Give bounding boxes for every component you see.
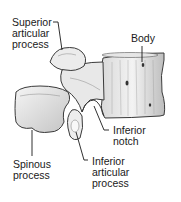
label-line: process [92,178,129,189]
superior-articular-process [50,48,86,71]
label-line: Body [131,33,155,44]
label-spinous-process: Spinous process [13,159,51,181]
label-line: process [12,39,52,50]
spinous-process [15,86,70,133]
leader-superior-articular [53,22,62,50]
label-line: process [13,170,51,181]
label-line: notch [113,136,146,147]
label-inferior-articular-process: Inferior articular process [92,156,129,189]
vertebral-body [100,53,164,118]
label-superior-articular-process: Superior articular process [12,17,52,50]
label-body: Body [131,33,155,44]
label-inferior-notch: Inferior notch [113,125,146,147]
